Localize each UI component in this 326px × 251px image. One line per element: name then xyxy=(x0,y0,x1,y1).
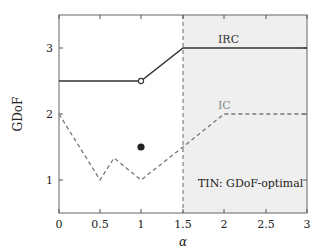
x-tick-label: 1 xyxy=(138,218,145,231)
x-tick-label: 2 xyxy=(221,218,228,231)
filled-dot-marker xyxy=(137,143,144,150)
x-tick-label: 2.5 xyxy=(257,218,275,231)
y-tick-label: 1 xyxy=(46,174,53,187)
x-tick-label: 0 xyxy=(56,218,63,231)
open-circle-marker xyxy=(138,78,143,83)
y-tick-label: 2 xyxy=(46,108,53,121)
irc-label: IRC xyxy=(218,33,239,46)
ic-label: IC xyxy=(218,99,231,112)
y-axis-label: GDoF xyxy=(11,97,25,132)
x-tick-label: 0.5 xyxy=(91,218,109,231)
x-tick-label: 3 xyxy=(304,218,311,231)
x-tick-label: 1.5 xyxy=(174,218,192,231)
gdof-chart: 0 0.5 1 1.5 2 2.5 3 1 2 3 α GDoF IRC IC … xyxy=(0,0,326,251)
tin-region-label: TIN: GDoF-optimal xyxy=(198,177,304,190)
x-axis-label: α xyxy=(179,235,187,249)
y-tick-label: 3 xyxy=(46,42,53,55)
